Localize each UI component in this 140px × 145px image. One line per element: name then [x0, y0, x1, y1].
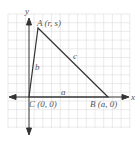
triangle-abc	[29, 28, 108, 97]
side-a-label: a	[61, 87, 66, 97]
y-axis	[27, 18, 32, 135]
x-axis-left-arrow-icon	[9, 95, 16, 100]
side-c-label: c	[73, 51, 77, 61]
y-axis-up-arrow-icon	[27, 18, 32, 25]
y-axis-label: y	[24, 6, 29, 16]
vertex-b-label: B (a, 0)	[90, 99, 117, 109]
vertex-a-label: A (r, s)	[36, 18, 61, 28]
x-axis-label: x	[130, 92, 135, 102]
coordinate-diagram: y x A (r, s) B (a, 0) C (0, 0) a b c	[0, 0, 140, 145]
vertex-c-label: C (0, 0)	[29, 99, 57, 109]
y-axis-down-arrow-icon	[27, 128, 32, 135]
grid	[8, 14, 130, 128]
x-axis-right-arrow-icon	[122, 95, 129, 100]
side-b-label: b	[35, 62, 40, 72]
